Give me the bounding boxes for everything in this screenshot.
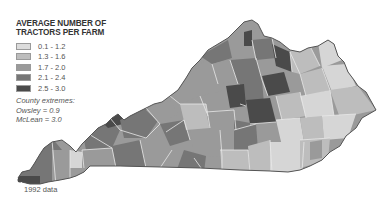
legend-item: 2.5 - 3.0: [16, 83, 136, 94]
county-region: [244, 30, 252, 46]
legend-title-line-2: TRACTORS PER FARM: [16, 28, 136, 37]
county-extremes-note: County extremes: Owsley = 0.9 McLean = 3…: [16, 96, 75, 125]
legend-title-line-1: AVERAGE NUMBER OF: [16, 19, 136, 28]
extremes-heading: County extremes:: [16, 96, 75, 106]
legend-label: 0.1 - 1.2: [38, 42, 66, 51]
county-region: [322, 114, 356, 140]
extremes-min: Owsley = 0.9: [16, 106, 75, 116]
map-legend: AVERAGE NUMBER OF TRACTORS PER FARM 0.1 …: [16, 19, 136, 94]
county-region: [220, 150, 250, 172]
legend-label: 1.7 - 2.0: [38, 63, 66, 72]
legend-item: 1.3 - 1.6: [16, 52, 136, 63]
legend-swatch: [16, 74, 31, 81]
legend-item: 1.7 - 2.0: [16, 62, 136, 73]
legend-swatch: [16, 53, 31, 60]
legend-swatch: [16, 85, 31, 92]
county-region: [300, 116, 324, 142]
legend-swatch: [16, 43, 31, 50]
kentucky-bend-exclave: [18, 178, 23, 183]
legend-label: 2.1 - 2.4: [38, 73, 66, 82]
legend-title: AVERAGE NUMBER OF TRACTORS PER FARM: [16, 19, 136, 37]
legend-item: 0.1 - 1.2: [16, 41, 136, 52]
legend-label: 2.5 - 3.0: [38, 84, 66, 93]
county-region: [270, 142, 302, 172]
data-year-footnote: 1992 data: [24, 185, 57, 194]
legend-label: 1.3 - 1.6: [38, 52, 66, 61]
county-region: [206, 110, 236, 130]
county-region: [310, 140, 322, 160]
legend-items: 0.1 - 1.2 1.3 - 1.6 1.7 - 2.0 2.1 - 2.4 …: [16, 41, 136, 94]
legend-swatch: [16, 64, 31, 71]
legend-item: 2.1 - 2.4: [16, 73, 136, 84]
extremes-max: McLean = 3.0: [16, 115, 75, 125]
